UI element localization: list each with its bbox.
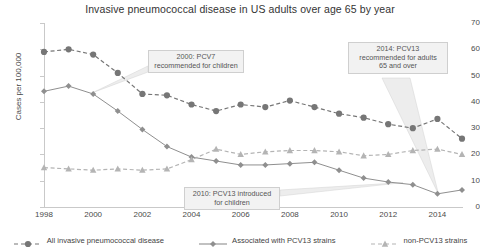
series-line bbox=[44, 149, 462, 170]
data-point bbox=[41, 88, 47, 94]
data-point bbox=[262, 104, 268, 110]
legend-label: non-PCV13 strains bbox=[404, 236, 468, 245]
data-point bbox=[336, 167, 342, 173]
annotation-pcv7: 2000: PCV7 recommended for children bbox=[148, 50, 244, 73]
data-point bbox=[336, 111, 342, 117]
data-point bbox=[459, 187, 465, 193]
legend-item-1[interactable]: Associated with PCV13 strains bbox=[198, 235, 335, 245]
annotation-pcv13-children: 2010: PCV13 introduced for children bbox=[184, 187, 280, 210]
data-point bbox=[164, 144, 170, 150]
legend-key-icon bbox=[198, 235, 228, 245]
data-point bbox=[66, 83, 72, 89]
chart-container: Invasive pneumococcal disease in US adul… bbox=[0, 0, 480, 251]
data-point bbox=[213, 158, 219, 164]
data-point bbox=[115, 70, 121, 76]
data-point bbox=[459, 151, 465, 157]
data-point bbox=[287, 97, 293, 103]
annotation-pcv13-adults: 2014: PCV13 recommended for adults 65 an… bbox=[348, 42, 448, 74]
annotation-leader bbox=[382, 78, 438, 194]
data-point bbox=[434, 191, 440, 197]
data-point bbox=[311, 104, 317, 110]
annotation-pcv13-children-line2: for children bbox=[188, 199, 276, 208]
data-point bbox=[65, 46, 71, 52]
data-point bbox=[410, 125, 416, 131]
data-point bbox=[311, 159, 317, 165]
series-plot-layer bbox=[0, 0, 480, 251]
data-point bbox=[164, 92, 170, 98]
legend-label: All invasive pneumococcal disease bbox=[47, 236, 164, 245]
chart-legend: All invasive pneumococcal diseaseAssocia… bbox=[0, 232, 480, 248]
data-point bbox=[410, 182, 416, 188]
data-point bbox=[385, 121, 391, 127]
annotation-leader bbox=[280, 183, 403, 196]
data-point bbox=[213, 108, 219, 114]
legend-item-0[interactable]: All invasive pneumococcal disease bbox=[13, 235, 164, 245]
annotation-pcv7-line2: recommended for children bbox=[152, 62, 240, 71]
data-point bbox=[459, 136, 465, 142]
data-point bbox=[90, 51, 96, 57]
data-point bbox=[287, 161, 293, 167]
data-point bbox=[361, 175, 367, 181]
data-point bbox=[41, 49, 47, 55]
annotation-pcv13-adults-line3: 65 and over bbox=[352, 62, 444, 71]
legend-item-2[interactable]: non-PCV13 strains bbox=[370, 235, 468, 245]
legend-label: Associated with PCV13 strains bbox=[232, 236, 335, 245]
data-point bbox=[238, 162, 244, 168]
data-point bbox=[238, 101, 244, 107]
series-2 bbox=[41, 146, 465, 173]
data-point bbox=[262, 162, 268, 168]
annotation-leader bbox=[93, 66, 148, 92]
data-point bbox=[139, 91, 145, 97]
data-point bbox=[434, 116, 440, 122]
data-point bbox=[213, 146, 219, 152]
legend-key-icon bbox=[370, 235, 400, 245]
data-point bbox=[361, 115, 367, 121]
data-point bbox=[188, 101, 194, 107]
legend-key-icon bbox=[13, 235, 43, 245]
